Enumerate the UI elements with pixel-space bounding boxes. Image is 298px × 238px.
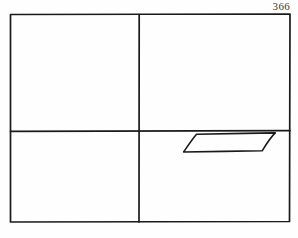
parallelogram-shape [184,133,276,152]
horizontal-divider-line [11,131,291,132]
outer-rectangle [11,14,291,222]
figure-canvas [0,0,298,238]
figure-diagram [0,0,298,238]
scanned-page: 366 [0,0,298,238]
